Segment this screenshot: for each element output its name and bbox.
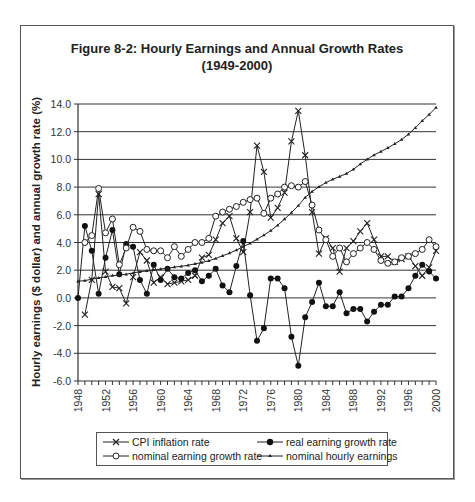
series-group: [75, 106, 439, 369]
data-point: [151, 248, 157, 254]
data-point: [89, 248, 95, 254]
data-point: [364, 318, 370, 324]
data-point: [433, 276, 439, 282]
x-tick-label: 1968: [210, 389, 222, 413]
data-point: [96, 185, 102, 191]
open-circle-marker-icon: [103, 451, 129, 461]
y-tick-label: -6.0: [53, 375, 71, 387]
data-point: [96, 291, 102, 297]
data-point: [130, 224, 136, 230]
legend-item-cpi: CPI inflation rate: [103, 436, 210, 448]
y-tick-label: 6.0: [56, 209, 71, 221]
y-tick-label: 10.0: [51, 153, 72, 165]
data-point: [213, 213, 219, 219]
data-point: [123, 245, 129, 251]
data-point: [350, 251, 356, 257]
data-point: [144, 246, 150, 252]
x-tick-label: 1956: [127, 389, 139, 413]
data-point: [288, 183, 294, 189]
data-point: [399, 294, 405, 300]
data-point: [247, 197, 253, 203]
x-tick-label: 1952: [100, 389, 112, 413]
data-point: [419, 246, 425, 252]
data-point: [419, 273, 425, 279]
y-tick-label: 0.0: [56, 292, 71, 304]
data-point: [192, 240, 198, 246]
y-tick-label: -4.0: [53, 347, 71, 359]
data-point: [206, 252, 212, 258]
x-tick-label: 1976: [265, 389, 277, 413]
data-point: [295, 184, 301, 190]
data-point: [158, 248, 164, 254]
data-point: [357, 306, 363, 312]
data-point: [185, 270, 191, 276]
legend-label: nominal earning growth rate: [132, 450, 262, 462]
data-point: [378, 258, 384, 264]
data-point: [240, 199, 246, 205]
data-point: [123, 300, 129, 306]
y-tick-label: 14.0: [51, 98, 72, 110]
data-point: [144, 258, 150, 264]
data-point: [337, 269, 343, 275]
legend-label: real earning growth rate: [286, 436, 397, 448]
data-point: [288, 334, 294, 340]
x-tick-label: 1980: [292, 389, 304, 413]
plot-area: 14.012.010.08.06.04.02.00.0-2.0-4.0-6.01…: [0, 0, 475, 502]
data-point: [116, 262, 122, 268]
data-point: [371, 237, 377, 243]
data-point: [371, 309, 377, 315]
data-point: [316, 280, 322, 286]
data-point: [344, 310, 350, 316]
data-point: [385, 260, 391, 266]
data-point: [371, 246, 377, 252]
data-point: [220, 220, 226, 226]
data-point: [130, 274, 136, 280]
data-point: [282, 184, 288, 190]
data-point: [82, 223, 88, 229]
data-point: [412, 273, 418, 279]
data-point: [426, 269, 432, 275]
data-point: [103, 230, 109, 236]
data-point: [137, 249, 143, 255]
data-point: [350, 306, 356, 312]
data-point: [137, 277, 143, 283]
data-point: [261, 325, 267, 331]
data-point: [412, 251, 418, 257]
x-tick-label: 1996: [402, 389, 414, 413]
data-point: [357, 245, 363, 251]
data-point: [199, 240, 205, 246]
data-point: [233, 263, 239, 269]
data-point: [434, 106, 438, 109]
data-point: [302, 314, 308, 320]
data-point: [268, 195, 274, 201]
data-point: [330, 253, 336, 259]
data-point: [220, 282, 226, 288]
data-point: [399, 255, 405, 261]
legend: CPI inflation rate real earning growth r…: [96, 432, 388, 466]
data-point: [282, 285, 288, 291]
data-point: [323, 303, 329, 309]
y-tick-label: 2.0: [56, 264, 71, 276]
legend-item-nominal-earnings: nominal hourly earnings: [257, 450, 397, 462]
x-tick-label: 1988: [347, 389, 359, 413]
data-point: [109, 216, 115, 222]
y-tick-label: -2.0: [53, 320, 71, 332]
data-point: [419, 262, 425, 268]
data-point: [350, 238, 356, 244]
data-point: [295, 363, 301, 369]
x-tick-label: 1972: [237, 389, 249, 413]
data-point: [233, 203, 239, 209]
series-filled-circle: [75, 223, 439, 369]
x-marker-icon: [103, 437, 129, 447]
data-point: [199, 255, 205, 261]
filled-circle-marker-icon: [257, 437, 283, 447]
data-point: [275, 276, 281, 282]
data-point: [433, 244, 439, 250]
data-point: [247, 292, 253, 298]
x-tick-label: 2000: [430, 389, 442, 413]
data-point: [337, 289, 343, 295]
data-point: [206, 273, 212, 279]
series-x: [82, 108, 439, 318]
data-point: [82, 240, 88, 246]
data-point: [213, 266, 219, 272]
